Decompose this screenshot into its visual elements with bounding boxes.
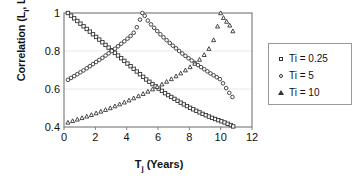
legend-item-label: Ti = 10 <box>289 87 319 98</box>
legend-square-marker-icon <box>275 57 287 61</box>
legend-item-label: Ti = 0.25 <box>289 53 328 64</box>
x-tick-label: 12 <box>240 131 264 143</box>
x-tick-label: 6 <box>146 131 170 143</box>
x-axis-title-rest: (Years) <box>144 158 184 170</box>
legend-triangle-marker-icon <box>275 90 287 95</box>
chart-figure: Correlation (Li, Lj) 1 0.8 0.6 0.4 02468… <box>0 0 360 184</box>
x-tick-label: 2 <box>83 131 107 143</box>
legend-item[interactable]: Ti = 10 <box>275 84 351 101</box>
x-tick-label: 4 <box>115 131 139 143</box>
x-tick-label: 0 <box>52 131 76 143</box>
series-circle <box>66 11 234 99</box>
series-square <box>66 11 235 128</box>
legend-item-label: Ti = 5 <box>289 70 314 81</box>
legend-circle-marker-icon <box>275 74 287 78</box>
x-tick-label: 10 <box>209 131 233 143</box>
legend-item[interactable]: Ti = 0.25 <box>275 50 351 67</box>
chart-legend: Ti = 0.25 Ti = 5 Ti = 10 <box>268 43 352 105</box>
legend-item[interactable]: Ti = 5 <box>275 67 351 84</box>
x-axis-title: Tj (Years) <box>64 158 254 173</box>
x-tick-label: 8 <box>177 131 201 143</box>
